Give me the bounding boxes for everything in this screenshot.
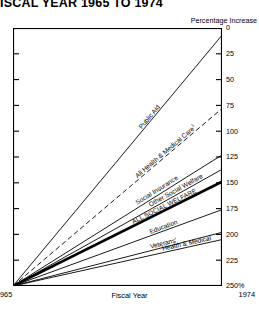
data-lines	[13, 35, 222, 286]
y-tick-label: 125	[226, 153, 238, 160]
y-tick-label: 75	[226, 102, 234, 109]
y-tick-label: 100	[226, 128, 238, 135]
y-axis-title: Percentage Increase	[191, 16, 257, 25]
y-tick-label: 175	[226, 205, 238, 212]
y-tick-label: 250%	[226, 282, 244, 289]
data-line	[13, 35, 222, 286]
chart-title: ISCAL YEAR 1965 TO 1974	[0, 0, 259, 14]
y-tick-label: 225	[226, 257, 238, 264]
y-tick-label: 0	[226, 24, 230, 31]
chart-svg	[13, 28, 222, 286]
axis-ticks	[13, 28, 222, 286]
y-tick-label: 150	[226, 179, 238, 186]
y-tick-label: 25	[226, 50, 234, 57]
y-tick-label: 50	[226, 76, 234, 83]
data-line	[13, 155, 222, 286]
plot-area: 250%2252001751501251007550250 Public Aid…	[13, 28, 222, 286]
x-axis-end-label: 1974	[239, 290, 255, 299]
data-line	[13, 169, 222, 286]
x-axis-title: Fiscal Year	[0, 291, 259, 300]
y-tick-label: 200	[226, 231, 238, 238]
data-line	[13, 240, 222, 286]
